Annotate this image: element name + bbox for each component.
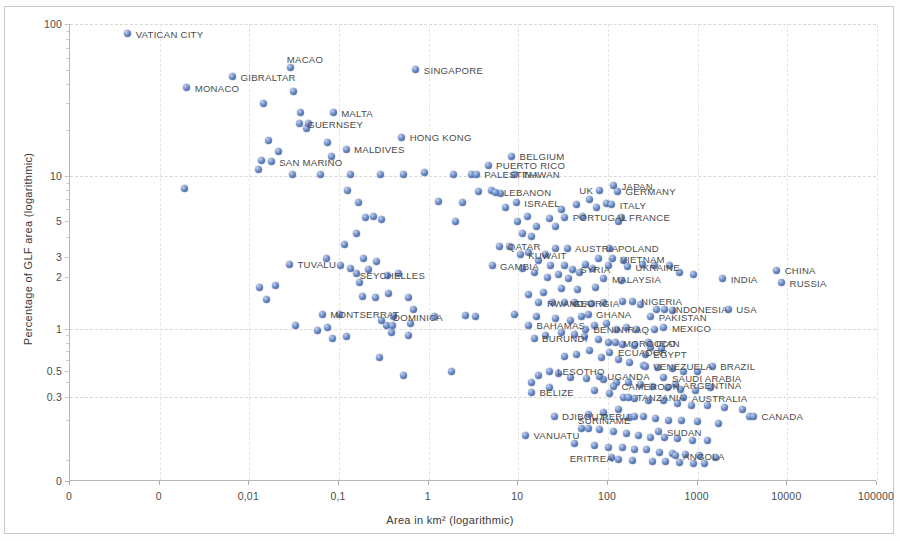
data-point-label: ERITREA <box>570 454 613 464</box>
data-point <box>181 185 188 192</box>
gridline-vertical <box>249 24 250 480</box>
data-point <box>265 137 272 144</box>
data-point <box>721 404 728 411</box>
data-point-labeled <box>778 279 785 286</box>
data-point-label: GEORGIA <box>573 299 620 309</box>
data-point <box>400 171 407 178</box>
x-tick-mark <box>876 481 877 485</box>
data-point <box>329 335 336 342</box>
data-point-labeled <box>330 109 337 116</box>
data-point <box>376 354 383 361</box>
data-point-labeled <box>647 313 654 320</box>
data-point <box>255 166 262 173</box>
data-point-labeled <box>596 187 603 194</box>
data-point <box>475 188 482 195</box>
data-point-label: GAMBIA <box>500 262 539 272</box>
data-point-label: PORTUGAL <box>573 213 628 223</box>
data-point <box>341 241 348 248</box>
data-point <box>314 327 321 334</box>
data-point <box>435 198 442 205</box>
data-point <box>528 233 535 240</box>
data-point <box>533 313 540 320</box>
data-point-labeled <box>750 413 757 420</box>
data-point <box>573 351 580 358</box>
x-tick-mark <box>517 481 518 485</box>
data-point-label: MALTA <box>341 109 373 119</box>
data-point <box>715 420 722 427</box>
data-point <box>289 171 296 178</box>
data-point-labeled <box>608 201 615 208</box>
data-point <box>540 289 547 296</box>
data-point-label: MEXICO <box>672 324 711 334</box>
data-point-labeled <box>610 383 617 390</box>
data-point-label: UK <box>579 186 593 196</box>
data-point <box>297 109 304 116</box>
data-point-label: USA <box>736 305 756 315</box>
y-tick-label: 2 <box>20 271 62 283</box>
plot-area: VATICAN CITYGIBRALTARMACAOMONACOSINGAPOR… <box>69 24 876 481</box>
data-point <box>324 139 331 146</box>
data-point <box>353 270 360 277</box>
data-point <box>704 437 711 444</box>
data-point <box>511 311 518 318</box>
data-point-labeled <box>719 275 726 282</box>
gridline-horizontal <box>70 329 876 330</box>
data-point <box>610 428 617 435</box>
y-tick-label: 3 <box>20 251 62 263</box>
data-point-label: HONG KONG <box>410 133 472 143</box>
data-point <box>472 313 479 320</box>
data-point-label: AUSTRIA <box>575 244 618 254</box>
data-point-labeled <box>525 322 532 329</box>
data-point <box>596 426 603 433</box>
data-point <box>373 258 380 265</box>
data-point-labeled <box>609 255 616 262</box>
data-point-labeled <box>773 267 780 274</box>
data-point <box>656 449 663 456</box>
data-point-labeled <box>183 84 190 91</box>
data-point <box>649 458 656 465</box>
data-point <box>533 223 540 230</box>
data-point-labeled <box>561 214 568 221</box>
data-point-label: MONTSERRAT <box>330 310 399 320</box>
data-point <box>546 215 553 222</box>
data-point <box>275 148 282 155</box>
data-point-labeled <box>124 30 131 37</box>
data-point-label: BAHAMAS <box>537 321 586 331</box>
data-point-label: BELIZE <box>539 388 574 398</box>
data-point <box>558 285 565 292</box>
data-point <box>619 444 626 451</box>
data-point-labeled <box>551 413 558 420</box>
data-point-labeled <box>569 266 576 273</box>
data-point-label: MALAYSIA <box>612 275 661 285</box>
data-point <box>502 204 509 211</box>
data-point-labeled <box>546 368 553 375</box>
data-point <box>694 418 701 425</box>
data-point <box>377 171 384 178</box>
x-tick-mark <box>338 481 339 485</box>
data-point <box>552 223 559 230</box>
data-point-labeled <box>485 162 492 169</box>
data-point-label: BENIN <box>593 325 624 335</box>
data-point <box>574 286 581 293</box>
gridline-horizontal <box>70 24 876 25</box>
data-point-label: ARGENTINA <box>683 381 741 391</box>
data-point-labeled <box>629 298 636 305</box>
x-tick-label: 10000 <box>751 490 821 502</box>
y-tick-label: 100 <box>20 18 62 30</box>
data-point-labeled <box>319 311 326 318</box>
data-point-label: BURUNDI <box>542 334 587 344</box>
data-point <box>561 262 568 269</box>
data-point <box>662 458 669 465</box>
data-point <box>619 298 626 305</box>
data-point-label: MONACO <box>195 84 240 94</box>
x-tick-label: 0,01 <box>213 490 283 502</box>
data-point-label: TUVALU <box>297 260 336 270</box>
data-point <box>370 213 377 220</box>
data-point-label: MACAO <box>287 55 323 65</box>
data-point <box>355 199 362 206</box>
data-point <box>689 437 696 444</box>
data-point-labeled <box>642 363 649 370</box>
data-point <box>573 201 580 208</box>
gridline-vertical <box>339 24 340 480</box>
data-point-label: GERMANY <box>626 187 676 197</box>
